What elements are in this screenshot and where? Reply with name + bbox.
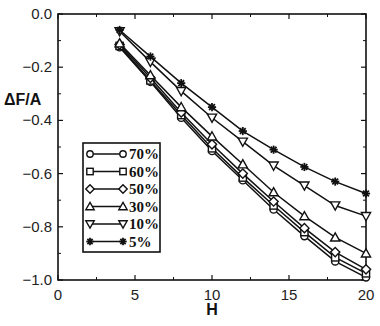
- legend-label: 30%: [129, 199, 159, 215]
- x-tick-label: 5: [131, 286, 139, 303]
- y-axis-title: ΔF/A: [4, 91, 42, 108]
- legend: 70%60%50%30%10%5%: [83, 143, 160, 252]
- axis-tick-labels: 051015200.0−0.2−0.4−0.6−0.8−1.0: [22, 5, 374, 303]
- x-tick-label: 15: [281, 286, 298, 303]
- legend-label: 70%: [129, 146, 159, 162]
- x-tick-label: 0: [54, 286, 62, 303]
- y-tick-label: −0.2: [22, 58, 52, 75]
- y-tick-label: −0.4: [22, 111, 52, 128]
- x-axis-title: H: [206, 301, 218, 318]
- legend-label: 10%: [129, 216, 159, 232]
- legend-label: 50%: [129, 181, 159, 197]
- y-tick-label: −0.6: [22, 165, 52, 182]
- y-tick-label: −1.0: [22, 271, 52, 288]
- x-tick-label: 20: [358, 286, 375, 303]
- y-tick-label: −0.8: [22, 218, 52, 235]
- y-tick-label: 0.0: [31, 5, 52, 22]
- legend-label: 5%: [129, 234, 152, 250]
- legend-label: 60%: [129, 164, 159, 180]
- line-chart: 051015200.0−0.2−0.4−0.6−0.8−1.0 70%60%50…: [0, 0, 380, 326]
